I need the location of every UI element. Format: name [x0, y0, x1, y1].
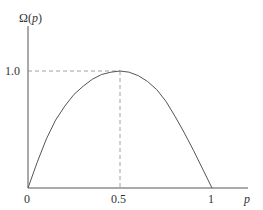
y-tick-1: 1.0 — [5, 64, 20, 78]
x-tick-0: 0 — [24, 192, 30, 206]
x-tick-0-5: 0.5 — [111, 192, 126, 206]
y-axis-label: Ω(p) — [19, 11, 42, 25]
x-axis-label: p — [243, 192, 250, 206]
x-tick-1: 1 — [208, 192, 214, 206]
chart-canvas: Ω(p) 1.0 0 0.5 1 p — [0, 0, 263, 210]
